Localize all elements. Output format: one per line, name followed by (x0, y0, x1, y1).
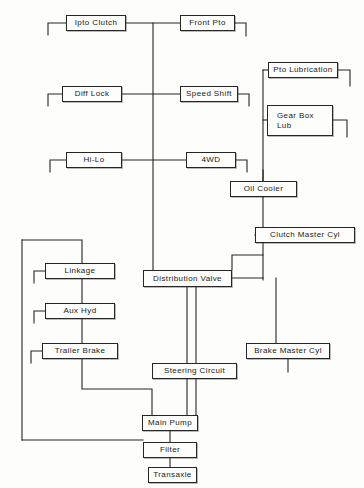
node-label-four-wd: 4WD (187, 155, 235, 165)
connector-left-bus-top (22, 240, 82, 263)
node-pto-lubrication[interactable]: Pto Lubrication (268, 62, 338, 78)
node-label-steering-circuit: Steering Circuit (153, 366, 236, 376)
node-label-aux-hyd: Aux Hyd (46, 306, 114, 316)
connector-fourwd-ground-stub (236, 160, 247, 172)
node-four-wd[interactable]: 4WD (186, 152, 236, 168)
node-label-brake-master-cyl: Brake Master Cyl (247, 346, 329, 356)
node-label-trailer-brake: Trailer Brake (43, 346, 117, 356)
connector-front-pto-ground-stub (235, 23, 246, 36)
connector-distrib-upper-loop (232, 255, 263, 270)
connector-linkage-ground (34, 271, 45, 283)
connector-gearbox-lub-ground-stub (333, 120, 347, 137)
node-label-clutch-master-cyl: Clutch Master Cyl (256, 230, 354, 240)
node-linkage[interactable]: Linkage (45, 263, 115, 279)
node-label-ipto-clutch: Ipto Clutch (67, 18, 125, 28)
node-front-pto[interactable]: Front Pto (180, 15, 235, 31)
connector-diff-ground-stub (48, 94, 62, 106)
node-diff-lock[interactable]: Diff Lock (62, 86, 122, 102)
node-clutch-master-cyl[interactable]: Clutch Master Cyl (255, 227, 355, 243)
node-label-front-pto: Front Pto (181, 18, 234, 28)
node-gear-box-lub[interactable]: Gear Box Lub (267, 105, 333, 136)
node-label-distribution-valve: Distribution Valve (144, 274, 231, 284)
node-aux-hyd[interactable]: Aux Hyd (45, 303, 115, 319)
node-main-pump[interactable]: Main Pump (142, 415, 198, 431)
connector-hilo-ground-stub (50, 160, 66, 172)
node-label-transaxle: Transaxle (149, 470, 196, 480)
connector-ipto-ground-stub (48, 23, 66, 35)
node-oil-cooler[interactable]: Oil Cooler (230, 181, 297, 197)
connector-trailer-to-pumpbus (82, 359, 152, 415)
node-label-pto-lubrication: Pto Lubrication (269, 65, 337, 75)
connector-aux-ground (34, 311, 45, 323)
connector-trailer-ground (31, 351, 42, 363)
connector-pto-lub-ground-stub (338, 70, 350, 86)
node-transaxle[interactable]: Transaxle (148, 467, 197, 483)
node-label-main-pump: Main Pump (143, 418, 197, 428)
node-trailer-brake[interactable]: Trailer Brake (42, 343, 118, 359)
node-hi-lo[interactable]: Hi-Lo (66, 152, 122, 168)
node-speed-shift[interactable]: Speed Shift (180, 86, 238, 102)
connector-speed-ground-stub (238, 94, 249, 106)
node-label-oil-cooler: Oil Cooler (231, 184, 296, 194)
node-label-hi-lo: Hi-Lo (67, 155, 121, 165)
node-filter[interactable]: Filter (143, 442, 197, 458)
node-label-linkage: Linkage (46, 266, 114, 276)
node-steering-circuit[interactable]: Steering Circuit (152, 363, 237, 379)
node-label-speed-shift: Speed Shift (181, 89, 237, 99)
node-brake-master-cyl[interactable]: Brake Master Cyl (246, 343, 330, 359)
node-label-diff-lock: Diff Lock (63, 89, 121, 99)
node-label-gear-box-lub: Gear Box Lub (277, 111, 332, 131)
node-ipto-clutch[interactable]: Ipto Clutch (66, 15, 126, 31)
node-label-filter: Filter (144, 445, 196, 455)
node-distribution-valve[interactable]: Distribution Valve (143, 270, 232, 287)
hydraulic-schematic-diagram: Ipto ClutchFront PtoPto LubricationDiff … (0, 0, 364, 488)
